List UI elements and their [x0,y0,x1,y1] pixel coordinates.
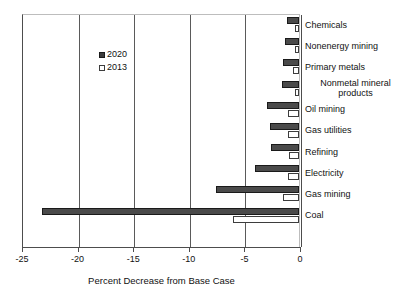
bar-2013-gas-utilities [288,131,299,138]
legend-swatch-filled-icon [99,52,105,58]
bar-row [23,206,299,227]
bar-chart: 2020 2013 -25 -20 -15 -10 -5 0 Percent D… [0,0,408,301]
x-tick--20 [78,247,79,252]
bar-row [23,163,299,184]
x-tick-label--20: -20 [71,254,84,264]
category-label-chemicals: Chemicals [305,14,406,35]
bar-2013-nonenergy-mining [295,46,299,53]
bar-2020-electricity [255,165,300,172]
bar-2013-gas-mining [283,194,299,201]
bar-2013-coal [233,216,299,223]
bar-2020-refining [271,144,299,151]
category-label-primary-metals: Primary metals [305,56,406,77]
bar-2020-nonmetal-mineral-products [282,81,299,88]
bar-row [23,36,299,57]
bar-2013-chemicals [295,25,299,32]
bar-row [23,184,299,205]
legend-label-2020: 2020 [107,48,127,61]
bar-row [23,142,299,163]
category-label-coal: Coal [305,205,406,226]
x-tick-label--5: -5 [240,254,248,264]
bar-row [23,100,299,121]
bar-2020-primary-metals [283,59,299,66]
bar-row [23,121,299,142]
x-tick-0 [300,247,301,252]
category-label-gas-utilities: Gas utilities [305,120,406,141]
plot-area: 2020 2013 [22,14,300,247]
category-label-nonenergy-mining: Nonenergy mining [305,35,406,56]
bar-2020-gas-mining [216,186,299,193]
category-label-gas-mining: Gas mining [305,183,406,204]
legend-label-2013: 2013 [107,61,127,74]
x-tick-label--10: -10 [182,254,195,264]
bar-2020-coal [42,208,299,215]
legend-item-2020: 2020 [99,48,127,61]
category-label-refining: Refining [305,141,406,162]
x-tick-label--15: -15 [127,254,140,264]
gridline-0 [301,15,302,247]
bar-row [23,57,299,78]
category-label-nonmetal-mineral-products: Nonmetal mineral products [305,78,406,99]
x-tick--5 [244,247,245,252]
bar-2020-nonenergy-mining [285,38,300,45]
category-label-oil-mining: Oil mining [305,99,406,120]
bar-2020-oil-mining [267,102,299,109]
bar-2013-primary-metals [293,67,299,74]
legend-swatch-open-icon [99,65,105,71]
x-tick--10 [189,247,190,252]
x-tick-label--25: -25 [15,254,28,264]
bar-2013-electricity [288,173,299,180]
x-tick-label-0: 0 [297,254,302,264]
x-tick--15 [133,247,134,252]
x-axis-title: Percent Decrease from Base Case [22,275,301,286]
bar-row [23,79,299,100]
bar-2013-refining [289,152,299,159]
bar-2013-nonmetal-mineral-products [295,89,299,96]
chart-legend: 2020 2013 [99,48,127,74]
category-label-electricity: Electricity [305,162,406,183]
x-axis-line [22,247,301,248]
bar-rows [23,15,299,247]
bar-row [23,15,299,36]
bar-2020-chemicals [287,17,299,24]
category-labels: Chemicals Nonenergy mining Primary metal… [305,14,406,247]
x-tick--25 [22,247,23,252]
legend-item-2013: 2013 [99,61,127,74]
bar-2013-oil-mining [288,110,299,117]
bar-2020-gas-utilities [270,123,299,130]
